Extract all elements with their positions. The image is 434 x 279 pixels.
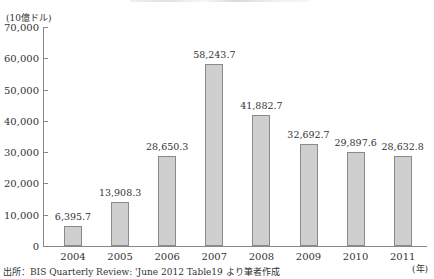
bar-value-label: 41,882.7: [240, 100, 282, 111]
bar-2009: [300, 144, 318, 246]
bar-value-label: 6,395.7: [55, 211, 91, 222]
y-tick-label: 0: [33, 241, 39, 252]
x-tick-label: 2011: [390, 251, 415, 262]
x-tick-label: 2009: [296, 251, 321, 262]
bar-2011: [394, 156, 412, 246]
bar-2006: [158, 156, 176, 246]
y-tick: [44, 246, 48, 247]
x-axis: [43, 246, 427, 247]
y-tick-label: 70,000: [4, 22, 39, 33]
y-tick-label: 50,000: [4, 84, 39, 95]
bar-value-label: 13,908.3: [99, 187, 141, 198]
x-tick-label: 2006: [154, 251, 179, 262]
y-tick: [44, 183, 48, 184]
y-tick-label: 30,000: [4, 147, 39, 158]
bar-2005: [111, 202, 129, 246]
bar-2007: [205, 64, 223, 246]
bar-value-label: 32,692.7: [287, 129, 329, 140]
y-tick-label: 10,000: [4, 209, 39, 220]
y-tick: [44, 90, 48, 91]
y-axis: [43, 27, 44, 246]
bar-value-label: 58,243.7: [193, 49, 235, 60]
y-tick: [44, 27, 48, 28]
x-axis-unit: (年): [412, 262, 428, 275]
y-tick-label: 40,000: [4, 115, 39, 126]
bar-2010: [347, 152, 365, 246]
x-tick-label: 2008: [249, 251, 274, 262]
source-note: 出所：BIS Quarterly Review: 'June 2012 Tabl…: [3, 265, 280, 278]
bar-2004: [64, 226, 82, 246]
bar-value-label: 28,650.3: [146, 141, 188, 152]
chart-title-cropped: [130, 0, 310, 2]
y-tick-label: 60,000: [4, 53, 39, 64]
y-tick: [44, 152, 48, 153]
x-tick-label: 2004: [60, 251, 85, 262]
y-tick: [44, 58, 48, 59]
bar-value-label: 29,897.6: [334, 137, 376, 148]
x-tick-label: 2010: [343, 251, 368, 262]
bar-value-label: 28,632.8: [382, 141, 424, 152]
y-tick-label: 20,000: [4, 178, 39, 189]
y-tick: [44, 215, 48, 216]
x-tick-label: 2005: [107, 251, 132, 262]
x-tick-label: 2007: [202, 251, 227, 262]
bar-2008: [252, 115, 270, 246]
y-tick: [44, 121, 48, 122]
